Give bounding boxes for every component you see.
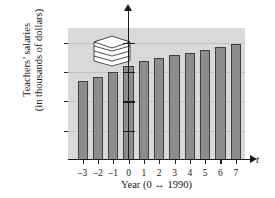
bar bbox=[215, 47, 225, 160]
x-axis-symbol: t bbox=[256, 153, 259, 165]
bar bbox=[139, 61, 149, 160]
y-axis-label: Teachers’ salaries (in thousands of doll… bbox=[21, 0, 45, 140]
x-tick-mark bbox=[113, 160, 114, 164]
y-axis-arrow bbox=[124, 4, 132, 11]
x-tick-mark bbox=[190, 160, 191, 164]
bar bbox=[78, 81, 88, 160]
chart-figure: Teachers’ salaries (in thousands of doll… bbox=[0, 0, 275, 198]
bar bbox=[185, 53, 195, 160]
x-axis-caption: Year (0 ↔ 1990) bbox=[68, 179, 245, 190]
bar bbox=[169, 55, 179, 160]
y-tick-mark bbox=[64, 101, 68, 102]
bar bbox=[231, 44, 241, 160]
y-axis-label-line2: (in thousands of dollars) bbox=[33, 0, 45, 140]
x-tick-mark bbox=[175, 160, 176, 164]
x-tick-mark bbox=[129, 160, 130, 164]
x-tick-mark bbox=[144, 160, 145, 164]
y-axis-tick bbox=[123, 131, 135, 132]
y-axis-label-line1: Teachers’ salaries bbox=[21, 0, 33, 140]
y-axis-line bbox=[128, 10, 129, 160]
x-tick-mark bbox=[159, 160, 160, 164]
y-tick-mark bbox=[64, 43, 68, 44]
bar bbox=[108, 72, 118, 160]
y-tick-mark bbox=[64, 72, 68, 73]
bar bbox=[154, 58, 164, 160]
x-tick-mark bbox=[220, 160, 221, 164]
bar bbox=[93, 77, 103, 160]
x-tick-mark bbox=[83, 160, 84, 164]
x-tick-label: 7 bbox=[226, 168, 246, 178]
plot-area: 10203040 S t –3–2–101234567 bbox=[68, 28, 245, 160]
y-axis-symbol: S bbox=[130, 0, 136, 2]
x-tick-mark bbox=[236, 160, 237, 164]
x-tick-mark bbox=[205, 160, 206, 164]
y-axis-tick bbox=[123, 43, 135, 44]
bar bbox=[200, 50, 210, 160]
y-axis-tick bbox=[123, 72, 135, 73]
y-tick-mark bbox=[64, 131, 68, 132]
stacked-layers-icon bbox=[86, 34, 138, 72]
x-tick-mark bbox=[98, 160, 99, 164]
y-axis-tick bbox=[123, 101, 135, 102]
